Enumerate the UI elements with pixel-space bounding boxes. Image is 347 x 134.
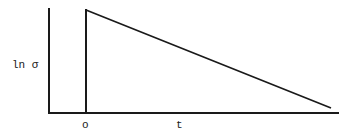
x-axis-label: t — [176, 119, 183, 131]
diagram-canvas: ln σ o t — [0, 0, 347, 134]
origin-label: o — [82, 119, 89, 131]
y-axis-label: ln σ — [12, 59, 39, 71]
linear-decay-line — [86, 10, 331, 108]
